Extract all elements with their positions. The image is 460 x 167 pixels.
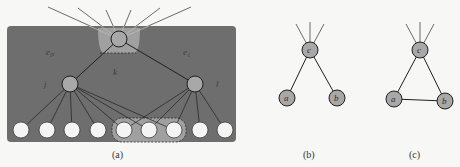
caption-a: (a) [112,149,123,161]
label-c-c: c [417,45,421,55]
leaf-node [116,122,132,138]
caption-b: (b) [303,149,315,161]
node-j [62,76,78,92]
leaf-node [141,122,157,138]
leaf-node [217,122,233,138]
label-j: j [43,79,47,89]
leaf-nodes [13,122,233,138]
label-e-right: e₁ [183,47,190,57]
leaf-node [13,122,29,138]
label-b-b: b [334,93,339,103]
label-a-c: a [391,94,396,104]
leaf-node [192,122,208,138]
panel-a: e₀ᵢ e₁ k j l (a) [7,7,236,161]
caption-c: (c) [409,149,420,161]
leaf-node [90,122,106,138]
leaf-node [64,122,80,138]
label-b-c: b [442,96,447,106]
node-l [187,76,203,92]
label-a-b: a [284,93,289,103]
top-node [111,31,127,47]
label-c-b: c [307,45,311,55]
figure: e₀ᵢ e₁ k j l (a) c a b (b) [0,0,460,167]
leaf-node [39,122,55,138]
panel-b: c a b (b) [279,22,345,161]
panel-c: c a b (c) [386,22,453,161]
label-e-left: e₀ᵢ [46,47,55,57]
leaf-node [166,122,182,138]
